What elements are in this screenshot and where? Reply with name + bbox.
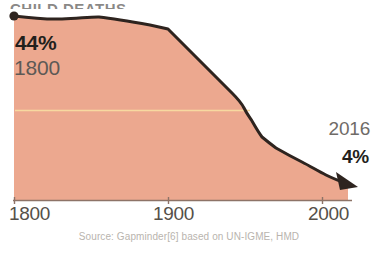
chart-container: CHILD DEATHS 44% 1800 2016 4% 1800 1900 … — [0, 0, 378, 253]
end-year-label: 2016 — [329, 119, 370, 138]
x-tick-label-1900: 1900 — [153, 203, 194, 225]
x-tick-label-1800: 1800 — [9, 203, 50, 225]
start-point-marker — [9, 11, 18, 20]
end-value-label: 4% — [342, 147, 369, 166]
start-value-label: 44% — [15, 32, 56, 53]
start-year-label: 1800 — [14, 57, 60, 78]
x-tick-label-2000: 2000 — [308, 203, 349, 225]
source-note: Source: Gapminder[6] based on UN-IGME, H… — [0, 231, 378, 242]
